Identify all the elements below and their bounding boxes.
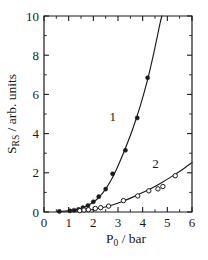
x-tick-label: 0 [41,215,48,230]
scatter-plot: 0246810 0123456 12 P0 / bar SRS / arb. u… [0,0,208,260]
figure-container: 0246810 0123456 12 P0 / bar SRS / arb. u… [0,0,208,260]
y-tick-label: 6 [33,87,40,102]
y-title-rest: / arb. units [4,74,19,135]
data-point-series-2 [86,207,90,211]
data-point-series-2 [161,184,165,188]
data-point-series-2 [93,206,97,210]
data-point-series-2 [121,198,125,202]
x-tick-label: 1 [65,215,72,230]
data-point-series-2 [156,187,160,191]
data-point-series-1 [104,187,108,191]
y-axis-title-text: SRS / arb. units [4,74,21,154]
fit-curves [58,16,192,212]
y-tick-label: 8 [33,48,40,63]
data-point-series-2 [173,174,177,178]
y-tick-label: 10 [26,9,39,24]
data-point-series-2 [147,189,151,193]
y-axis-title: SRS / arb. units [4,74,21,154]
x-tick-label: 5 [164,215,171,230]
data-point-markers [57,76,177,214]
data-point-series-1 [68,209,72,213]
data-point-series-2 [78,208,82,212]
data-point-series-1 [72,208,76,212]
x-title-rest: / bar [118,231,146,246]
data-point-series-1 [91,200,95,204]
data-point-series-2 [99,205,103,209]
data-point-series-1 [97,195,101,199]
curve-label-1: 1 [110,109,117,124]
y-tick-label: 0 [33,205,40,220]
x-tick-label: 2 [90,215,97,230]
y-tick-label: 2 [33,165,40,180]
data-point-series-2 [106,204,110,208]
data-point-series-2 [82,208,86,212]
y-title-main: S [4,146,19,154]
curve-number-labels: 12 [110,109,159,171]
x-axis-title: P0 / bar [106,231,147,248]
data-point-series-1 [110,172,114,176]
y-axis-tick-labels: 0246810 [26,9,40,220]
x-tick-label: 3 [115,215,122,230]
x-tick-label: 6 [189,215,196,230]
x-tick-label: 4 [139,215,146,230]
data-point-series-1 [123,148,127,152]
data-point-series-1 [135,116,139,120]
x-title-main: P [106,231,114,246]
plot-frame [44,16,192,212]
data-point-series-1 [57,209,61,213]
x-axis-tick-labels: 0123456 [41,215,196,230]
y-title-subscript: RS [11,135,21,147]
data-point-series-1 [146,76,150,80]
curve-label-2: 2 [152,156,159,171]
data-point-series-2 [136,194,140,198]
axis-tick-marks [44,16,192,212]
y-tick-label: 4 [33,126,40,141]
